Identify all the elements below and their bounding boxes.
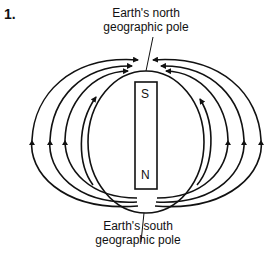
field-line-right-3: [157, 71, 228, 198]
field-line-left-3: [65, 71, 137, 198]
field-line-left-outer: [32, 60, 138, 207]
south-pole-pointer: [141, 213, 144, 242]
field-line-right-outer: [153, 60, 261, 207]
north-pole-pointer: [146, 37, 153, 71]
field-line-left-2: [50, 66, 137, 202]
magnetic-field-diagram: [0, 0, 271, 260]
magnet-south-label: S: [141, 87, 149, 101]
magnet-north-label: N: [141, 168, 150, 182]
